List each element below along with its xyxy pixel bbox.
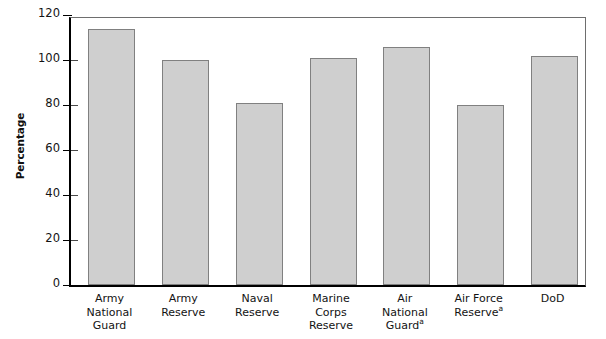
y-axis-tick-mark	[63, 285, 72, 286]
x-axis-category-label-line: Reservea	[429, 306, 529, 320]
y-axis-tick-mark-inner	[71, 60, 78, 61]
bar	[236, 103, 283, 285]
bar-chart: Percentage 020406080100120 ArmyNationalG…	[0, 0, 606, 339]
plot-area: 020406080100120	[69, 17, 586, 287]
footnote-marker: a	[419, 317, 424, 326]
x-axis-category-label-line: Guarda	[355, 319, 455, 333]
y-axis-tick-label: 80	[24, 98, 60, 110]
y-axis-tick-mark-inner	[71, 150, 78, 151]
bar	[531, 56, 578, 286]
y-axis-tick-mark-inner	[71, 240, 78, 241]
bar	[162, 60, 209, 285]
y-axis-tick-label: 120	[24, 8, 60, 20]
x-axis-category-label-line: DoD	[503, 292, 603, 306]
bar	[310, 58, 357, 285]
y-axis-tick-label: 20	[24, 233, 60, 245]
x-axis-category-label-line: Guard	[59, 319, 159, 333]
y-axis-tick-mark	[63, 15, 72, 16]
y-axis-tick-label: 60	[24, 143, 60, 155]
bar	[457, 105, 504, 285]
y-axis-tick-label: 100	[24, 53, 60, 65]
bar	[88, 29, 135, 286]
y-axis-tick-mark-inner	[71, 195, 78, 196]
y-axis-tick-label: 0	[24, 278, 60, 290]
x-axis-category-label: DoD	[503, 292, 603, 306]
y-axis-tick-label: 40	[24, 188, 60, 200]
y-axis-tick-mark-inner	[71, 105, 78, 106]
bar	[383, 47, 430, 286]
